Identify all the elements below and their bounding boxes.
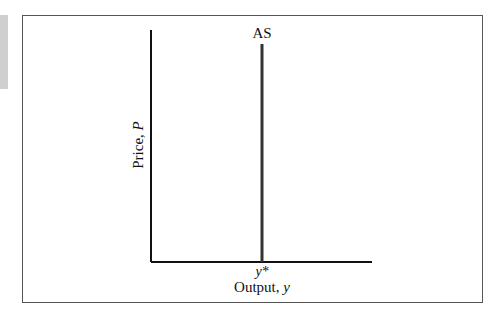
x-axis-label-var: y — [281, 279, 290, 295]
y-axis-label: Price, P — [130, 121, 146, 169]
as-diagram: AS y* Output, y Price, P — [0, 0, 499, 320]
x-axis-label-text: Output, — [234, 279, 283, 295]
y-axis-label-var: P — [130, 121, 146, 131]
as-label: AS — [252, 25, 271, 41]
y-star-tick-label: y* — [253, 264, 268, 279]
y-axis-label-text: Price, — [130, 130, 146, 168]
x-axis-label: Output, y — [234, 279, 290, 295]
